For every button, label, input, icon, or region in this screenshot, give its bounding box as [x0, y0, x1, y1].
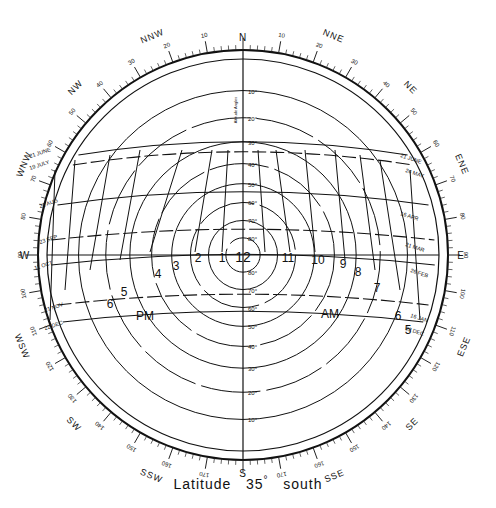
svg-text:70: 70	[29, 174, 37, 183]
svg-text:70°: 70°	[248, 288, 258, 294]
svg-text:20°: 20°	[248, 390, 258, 396]
svg-text:21 JUNE: 21 JUNE	[28, 146, 51, 159]
compass-ene: ENE	[453, 152, 470, 176]
svg-text:20°: 20°	[248, 116, 258, 122]
svg-text:21 NOV: 21 NOV	[43, 301, 64, 313]
svg-text:130: 130	[66, 392, 77, 404]
svg-text:160: 160	[160, 460, 172, 469]
svg-text:3: 3	[173, 259, 180, 273]
svg-text:30°: 30°	[248, 140, 258, 146]
compass-ese: ESE	[455, 335, 472, 358]
svg-text:26 FEB: 26 FEB	[410, 267, 430, 278]
svg-text:11: 11	[282, 251, 295, 265]
svg-text:140: 140	[380, 420, 392, 431]
compass-n: N	[239, 32, 247, 43]
svg-text:100: 100	[459, 288, 467, 300]
compass-se: SE	[404, 416, 421, 433]
svg-text:40°: 40°	[248, 344, 258, 350]
svg-text:60°: 60°	[248, 306, 258, 312]
svg-text:30: 30	[127, 57, 136, 66]
svg-text:10°: 10°	[248, 417, 258, 423]
svg-text:80°: 80°	[248, 236, 258, 242]
compass-nw: NW	[66, 78, 85, 97]
svg-text:50°: 50°	[248, 182, 258, 188]
svg-text:40: 40	[95, 79, 104, 88]
svg-text:6: 6	[107, 297, 114, 311]
compass-w: W	[20, 250, 30, 261]
svg-text:10: 10	[200, 32, 208, 39]
svg-text:1: 1	[219, 251, 226, 265]
caption: Latitude 35° south	[0, 474, 496, 492]
svg-text:19 JULY: 19 JULY	[28, 159, 50, 171]
caption-prefix: Latitude	[174, 476, 232, 492]
svg-text:50: 50	[68, 107, 77, 116]
svg-text:50: 50	[409, 107, 418, 116]
svg-text:23 SEP: 23 SEP	[38, 233, 58, 245]
svg-text:10°: 10°	[248, 89, 258, 95]
svg-text:10: 10	[311, 253, 325, 267]
svg-text:9: 9	[340, 257, 347, 271]
svg-text:50°: 50°	[248, 324, 258, 330]
svg-text:120: 120	[431, 361, 442, 373]
svg-text:160: 160	[313, 460, 325, 469]
compass-ne: NE	[402, 79, 419, 96]
svg-text:20: 20	[315, 41, 324, 49]
svg-text:20: 20	[163, 41, 172, 49]
compass-nnw: NNW	[139, 27, 165, 46]
svg-text:30°: 30°	[248, 366, 258, 372]
compass-wsw: WSW	[13, 333, 32, 361]
svg-text:2: 2	[195, 251, 202, 265]
svg-text:110: 110	[29, 325, 38, 337]
svg-text:5: 5	[405, 323, 412, 337]
compass-sw: SW	[65, 415, 84, 434]
svg-text:150: 150	[125, 443, 137, 454]
svg-text:60°: 60°	[248, 200, 258, 206]
svg-text:8: 8	[355, 265, 362, 279]
svg-text:10: 10	[278, 32, 286, 39]
svg-text:70°: 70°	[248, 218, 258, 224]
compass-nne: NNE	[322, 27, 346, 45]
svg-text:100: 100	[19, 288, 27, 300]
svg-text:140: 140	[93, 420, 105, 431]
svg-text:70: 70	[449, 175, 457, 184]
caption-latitude: 35	[246, 476, 264, 492]
svg-text:60: 60	[432, 139, 441, 148]
svg-text:21 AUG: 21 AUG	[38, 197, 58, 209]
svg-text:40°: 40°	[248, 162, 258, 168]
caption-suffix: south	[283, 476, 322, 492]
svg-text:7: 7	[374, 281, 381, 295]
svg-text:4: 4	[155, 267, 162, 281]
svg-text:16 APR: 16 APR	[400, 210, 420, 221]
svg-text:120: 120	[44, 360, 55, 372]
svg-text:80°: 80°	[248, 270, 258, 276]
caption-degree: °	[264, 474, 269, 485]
svg-text:130: 130	[408, 393, 419, 405]
svg-text:11 OCT: 11 OCT	[33, 259, 53, 271]
svg-text:6: 6	[395, 309, 402, 323]
svg-text:80: 80	[459, 212, 466, 220]
svg-text:12: 12	[235, 249, 251, 265]
altitude-axis-label: Altitude Angles	[233, 97, 238, 123]
sun-path-diagram: 1010202030304040505060607070808090901001…	[0, 0, 496, 508]
svg-text:22 DEC: 22 DEC	[43, 319, 63, 331]
svg-text:24 MAY: 24 MAY	[405, 167, 425, 179]
svg-text:80: 80	[20, 212, 27, 220]
svg-text:5: 5	[121, 285, 128, 299]
svg-text:30: 30	[350, 58, 359, 67]
am-label: AM	[321, 307, 339, 321]
svg-text:40: 40	[382, 80, 391, 89]
svg-text:110: 110	[448, 326, 457, 338]
svg-text:150: 150	[348, 443, 360, 454]
compass-e: E	[457, 250, 465, 261]
pm-label: PM	[136, 309, 154, 323]
